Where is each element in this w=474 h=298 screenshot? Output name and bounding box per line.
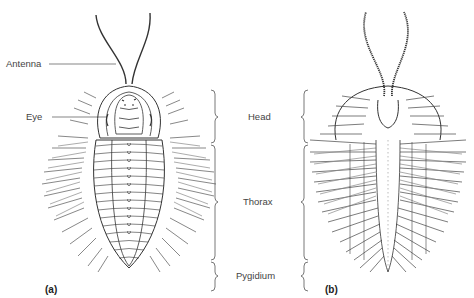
label-head: Head — [248, 111, 271, 122]
braces-left — [211, 90, 218, 291]
label-thorax: Thorax — [243, 196, 273, 207]
panel-label-a: (a) — [45, 284, 57, 295]
trilobite-dorsal — [42, 13, 216, 272]
limbs-right — [392, 96, 466, 272]
trilobite-diagram — [0, 0, 474, 298]
antenna-left — [96, 15, 126, 84]
label-antenna: Antenna — [6, 58, 41, 69]
limbs-left — [310, 96, 384, 272]
trilobite-ventral — [310, 12, 466, 272]
antenna-right-b — [392, 12, 408, 96]
label-eye: Eye — [26, 111, 42, 122]
hypostome — [378, 100, 399, 128]
antenna-left-b — [364, 12, 384, 96]
antenna-right — [132, 13, 150, 84]
braces-right — [301, 90, 308, 291]
label-pygidium: Pygidium — [236, 270, 275, 281]
panel-label-b: (b) — [325, 284, 338, 295]
